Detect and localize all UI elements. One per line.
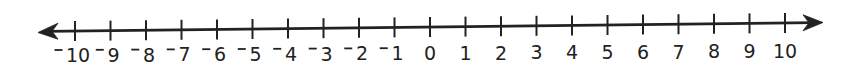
tick-label-group: 10	[773, 40, 797, 62]
tick-label: 9	[107, 44, 119, 66]
tick-label-group: 8	[708, 40, 720, 62]
tick-label-group: 0	[424, 42, 436, 64]
tick-label-group: 3	[309, 43, 333, 65]
tick-label-group: 8	[131, 44, 155, 66]
tick-label: 3	[530, 41, 542, 63]
tick-label-group: 2	[495, 42, 507, 64]
tick-label-group: 7	[167, 43, 191, 65]
tick-label: 4	[285, 43, 297, 65]
tick-label: 1	[391, 42, 403, 64]
tick-label-group: 3	[530, 41, 542, 63]
tick-label-group: 1	[380, 42, 404, 64]
tick-label-group: 4	[566, 41, 578, 63]
tick-label: 8	[143, 44, 155, 66]
number-line: 10987654321012345678910	[0, 0, 858, 78]
tick-label-group: 10	[55, 44, 91, 66]
tick-label: 2	[495, 42, 507, 64]
tick-label: 10	[66, 44, 90, 66]
tick-label-group: 9	[96, 44, 120, 66]
tick-label: 8	[708, 40, 720, 62]
tick-label-group: 4	[273, 43, 297, 65]
tick-label-group: 7	[672, 41, 684, 63]
tick-label-group: 9	[743, 40, 755, 62]
tick-label-group: 2	[344, 42, 368, 64]
tick-label: 5	[249, 43, 261, 65]
tick-label: 2	[356, 42, 368, 64]
tick-label: 10	[773, 40, 797, 62]
tick-label-group: 5	[238, 43, 262, 65]
tick-label: 6	[214, 43, 226, 65]
tick-marks	[75, 13, 785, 41]
tick-label-group: 6	[202, 43, 226, 65]
tick-label-group: 5	[601, 41, 613, 63]
tick-label: 3	[320, 43, 332, 65]
tick-label: 9	[743, 40, 755, 62]
tick-label: 7	[178, 43, 190, 65]
tick-label: 5	[601, 41, 613, 63]
tick-label: 6	[637, 41, 649, 63]
tick-label: 7	[672, 41, 684, 63]
tick-label: 0	[424, 42, 436, 64]
tick-label-group: 6	[637, 41, 649, 63]
tick-label-group: 1	[459, 42, 471, 64]
tick-label: 1	[459, 42, 471, 64]
tick-labels: 10987654321012345678910	[55, 40, 798, 66]
tick-label: 4	[566, 41, 578, 63]
